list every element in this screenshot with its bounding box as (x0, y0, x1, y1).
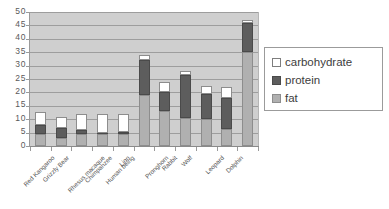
bar-segment-fat[interactable] (180, 118, 191, 146)
y-axis-tick-label: 40 (0, 33, 26, 42)
x-axis-tick-mark (51, 147, 52, 151)
bar-segment-fat[interactable] (76, 134, 87, 146)
bar-segment-carbohydrate[interactable] (221, 87, 232, 98)
bar-group[interactable] (221, 87, 232, 146)
legend-swatch-protein-icon (272, 76, 281, 85)
x-axis-tick-mark (134, 147, 135, 151)
y-axis-tick-labels: 50454035302520151050 (0, 7, 26, 153)
bar-segment-carbohydrate[interactable] (180, 71, 191, 75)
y-axis-tick-mark (26, 12, 30, 13)
legend-item-carbohydrate[interactable]: carbohydrate (272, 53, 382, 71)
x-axis-line (29, 146, 259, 147)
bar-segment-fat[interactable] (35, 134, 46, 146)
bar-group[interactable] (97, 114, 108, 146)
bar-segment-fat[interactable] (159, 111, 170, 146)
bar-group[interactable] (180, 71, 191, 146)
bar-segment-carbohydrate[interactable] (159, 82, 170, 92)
x-axis-category-label: Leopard (204, 154, 225, 175)
bar-segment-protein[interactable] (35, 125, 46, 134)
bar-segment-protein[interactable] (242, 23, 253, 52)
bar-group[interactable] (159, 82, 170, 146)
x-axis-tick-mark (237, 147, 238, 151)
bars-layer (30, 12, 258, 146)
y-axis-tick-label: 5 (0, 127, 26, 136)
bar-segment-protein[interactable] (118, 132, 129, 134)
y-axis-tick-mark (26, 119, 30, 120)
x-axis-tick-mark (196, 147, 197, 151)
bar-segment-carbohydrate[interactable] (242, 20, 253, 23)
bar-segment-protein[interactable] (97, 132, 108, 134)
bar-segment-protein[interactable] (139, 60, 150, 95)
bar-segment-fat[interactable] (221, 129, 232, 146)
bar-segment-protein[interactable] (180, 75, 191, 118)
y-axis-tick-mark (26, 66, 30, 67)
bar-segment-carbohydrate[interactable] (139, 55, 150, 60)
bar-segment-fat[interactable] (118, 134, 129, 146)
bar-group[interactable] (139, 55, 150, 146)
bar-segment-fat[interactable] (242, 52, 253, 146)
bar-segment-fat[interactable] (97, 134, 108, 146)
y-axis-tick-mark (26, 39, 30, 40)
x-axis-tick-mark (154, 147, 155, 151)
legend-label-protein: protein (285, 74, 320, 86)
bar-group[interactable] (118, 114, 129, 146)
x-axis-category-label: Wolf (180, 154, 194, 168)
y-axis-tick-mark (26, 146, 30, 147)
legend-label-fat: fat (285, 92, 298, 104)
bar-segment-protein[interactable] (159, 92, 170, 111)
x-axis-tick-mark (92, 147, 93, 151)
bar-segment-carbohydrate[interactable] (76, 114, 87, 130)
y-axis-tick-mark (26, 52, 30, 53)
bar-segment-carbohydrate[interactable] (97, 114, 108, 133)
bar-segment-protein[interactable] (76, 130, 87, 135)
y-axis-tick-label: 30 (0, 60, 26, 69)
x-axis-category-label: Dolphin (224, 154, 244, 174)
y-axis-tick-label: 25 (0, 74, 26, 83)
bar-segment-protein[interactable] (221, 98, 232, 129)
y-axis-tick-mark (26, 133, 30, 134)
bar-segment-carbohydrate[interactable] (56, 117, 67, 128)
bar-group[interactable] (242, 20, 253, 146)
bar-segment-carbohydrate[interactable] (201, 86, 212, 94)
bar-group[interactable] (56, 117, 67, 146)
x-axis-category-label: Rhesus macaque (66, 154, 106, 194)
legend-item-protein[interactable]: protein (272, 71, 382, 89)
x-axis-tick-mark (258, 147, 259, 151)
x-axis-tick-mark (30, 147, 31, 151)
x-axis-tick-mark (71, 147, 72, 151)
bar-segment-protein[interactable] (201, 94, 212, 119)
bar-group[interactable] (76, 114, 87, 146)
bar-segment-carbohydrate[interactable] (35, 112, 46, 125)
stacked-bar-chart: 50454035302520151050 Red KangarooGrizzly… (0, 0, 389, 209)
legend-swatch-carbohydrate-icon (272, 58, 281, 67)
y-axis-tick-mark (26, 106, 30, 107)
legend-item-fat[interactable]: fat (272, 89, 382, 107)
y-axis-tick-label: 15 (0, 100, 26, 109)
legend: carbohydrate protein fat (264, 47, 383, 111)
x-axis-tick-mark (217, 147, 218, 151)
y-axis-tick-mark (26, 79, 30, 80)
y-axis-tick-label: 10 (0, 114, 26, 123)
y-axis-tick-mark (26, 92, 30, 93)
y-axis-tick-label: 20 (0, 87, 26, 96)
y-axis-tick-mark (26, 25, 30, 26)
bar-segment-carbohydrate[interactable] (118, 114, 129, 132)
x-axis-tick-mark (175, 147, 176, 151)
x-axis-tick-mark (113, 147, 114, 151)
bar-segment-protein[interactable] (56, 128, 67, 138)
y-axis-tick-label: 45 (0, 20, 26, 29)
bar-segment-fat[interactable] (201, 119, 212, 146)
legend-label-carbohydrate: carbohydrate (285, 56, 352, 68)
y-axis-tick-label: 35 (0, 47, 26, 56)
bar-segment-fat[interactable] (56, 138, 67, 146)
y-axis-tick-label: 0 (0, 141, 26, 150)
bar-group[interactable] (35, 112, 46, 146)
y-axis-tick-label: 50 (0, 7, 26, 16)
bar-segment-fat[interactable] (139, 95, 150, 146)
bar-group[interactable] (201, 86, 212, 146)
legend-swatch-fat-icon (272, 94, 281, 103)
